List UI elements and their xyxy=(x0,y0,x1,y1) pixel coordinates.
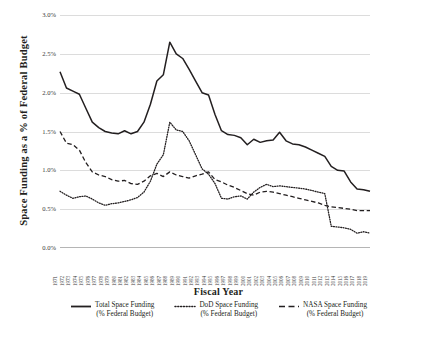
x-axis-tick-label: 2006 xyxy=(279,276,284,286)
y-axis-tick-label: 3.0% xyxy=(16,12,56,19)
x-axis-tick-label: 2015 xyxy=(337,276,342,286)
chart-legend: Total Space Funding(% Federal Budget)DoD… xyxy=(0,301,437,319)
y-axis-tick-label: 0.0% xyxy=(16,245,56,252)
x-axis-tick-label: 2003 xyxy=(260,276,265,286)
x-axis-tick-label: 1971 xyxy=(53,276,58,286)
legend-label-primary: Total Space Funding xyxy=(95,301,154,310)
x-axis-tick-label: 2012 xyxy=(318,276,323,286)
y-axis-tick-label: 1.0% xyxy=(16,167,56,174)
legend-key-dotted xyxy=(174,302,196,311)
x-axis-tick-label: 2008 xyxy=(292,276,297,286)
x-axis-tick-label: 1986 xyxy=(150,276,155,286)
series-line-dod-space-funding xyxy=(60,122,370,233)
x-axis-tick-label: 2001 xyxy=(247,276,252,286)
legend-label-secondary: (% Federal Budget) xyxy=(199,310,258,319)
x-axis-tick-label: 1979 xyxy=(105,276,110,286)
y-axis-tick-label: 2.5% xyxy=(16,51,56,58)
x-axis-tick-label: 1995 xyxy=(208,276,213,286)
x-axis-tick-label: 2013 xyxy=(325,276,330,286)
legend-label-primary: DoD Space Funding xyxy=(199,301,258,310)
x-axis-tick-label: 1973 xyxy=(66,276,71,286)
legend-label-primary: NASA Space Funding xyxy=(303,301,367,310)
legend-label: NASA Space Funding(% Federal Budget) xyxy=(303,301,367,319)
x-axis-tick-label: 1989 xyxy=(170,276,175,286)
legend-label: Total Space Funding(% Federal Budget) xyxy=(95,301,154,319)
x-axis-tick-label: 1982 xyxy=(124,276,129,286)
chart-container: Space Funding as a % of Federal Budget 3… xyxy=(0,0,437,338)
x-axis-tick-label: 1975 xyxy=(79,276,84,286)
x-axis-tick-label: 2010 xyxy=(305,276,310,286)
series-line-total-space-funding xyxy=(60,42,370,191)
x-axis-tick-label: 1977 xyxy=(92,276,97,286)
plot-area: 3.0%2.5%2.0%1.5%1.0%0.5%0.0% xyxy=(60,15,370,248)
legend-key-dashed xyxy=(278,302,300,311)
x-axis-tick-label: 1978 xyxy=(99,276,104,286)
x-axis-tick-label: 2002 xyxy=(254,276,259,286)
x-axis-tick-label: 2004 xyxy=(266,276,271,286)
legend-item: Total Space Funding(% Federal Budget) xyxy=(70,301,154,319)
x-axis-tick-label: 1993 xyxy=(195,276,200,286)
x-axis-tick-label: 1984 xyxy=(137,276,142,286)
x-axis-tick-label: 1990 xyxy=(176,276,181,286)
series-lines xyxy=(60,15,370,248)
x-axis-tick-label: 1999 xyxy=(234,276,239,286)
x-axis-tick-label: 2014 xyxy=(331,276,336,286)
x-axis-tick-label: 2017 xyxy=(350,276,355,286)
x-axis-tick-label: 1991 xyxy=(182,276,187,286)
legend-key-solid xyxy=(70,302,92,311)
y-axis-tick-label: 1.5% xyxy=(16,128,56,135)
legend-item: NASA Space Funding(% Federal Budget) xyxy=(278,301,367,319)
series-line-nasa-space-funding xyxy=(60,132,370,211)
legend-label-secondary: (% Federal Budget) xyxy=(303,310,367,319)
x-axis-tick-label: 2019 xyxy=(363,276,368,286)
y-axis-tick-label: 0.5% xyxy=(16,206,56,213)
x-axis-tick-label: 1997 xyxy=(221,276,226,286)
legend-label-secondary: (% Federal Budget) xyxy=(95,310,154,319)
legend-label: DoD Space Funding(% Federal Budget) xyxy=(199,301,258,319)
y-axis-tick-label: 2.0% xyxy=(16,89,56,96)
legend-item: DoD Space Funding(% Federal Budget) xyxy=(174,301,258,319)
x-axis-tick-label: 1980 xyxy=(111,276,116,286)
x-axis-title: Fiscal Year xyxy=(0,286,437,297)
x-axis-tick-labels: 1971197219731974197519761977197819791980… xyxy=(60,250,370,286)
x-axis-tick-label: 1988 xyxy=(163,276,168,286)
